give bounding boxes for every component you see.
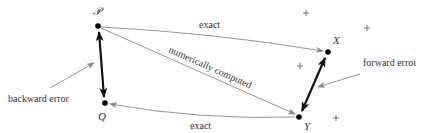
point-label-q: Q [98, 110, 106, 122]
point-x [325, 49, 331, 55]
cross-icon [364, 25, 370, 31]
cross-icon [297, 63, 303, 69]
forward-error-label: forward erroı [363, 57, 416, 68]
edge-label-numerically-computed: numerically computed [167, 44, 253, 91]
cross-icon [303, 10, 309, 16]
edge-label-exact-top: exact [199, 19, 220, 30]
backward-error-pointer [50, 63, 94, 88]
point-p [95, 23, 101, 29]
forward-error-pointer [318, 74, 360, 87]
backward-error-label: backward error [8, 93, 69, 104]
edge-p-to-x [101, 27, 323, 51]
edge-p-to-y [101, 28, 295, 114]
cross-marks [297, 10, 370, 121]
point-y [296, 114, 302, 120]
point-label-p: 𝒫 [93, 5, 104, 17]
edge-label-exact-bottom: exact [190, 120, 211, 131]
backward-error-arrow [99, 32, 104, 97]
forward-error-arrow [302, 58, 325, 111]
edge-y-to-q [110, 104, 295, 117]
point-q [102, 100, 108, 106]
error-analysis-diagram: exact numerically computed exact backwar… [0, 0, 422, 133]
point-label-x: X [332, 34, 341, 46]
point-label-y: Y [304, 120, 312, 132]
cross-icon [333, 115, 339, 121]
